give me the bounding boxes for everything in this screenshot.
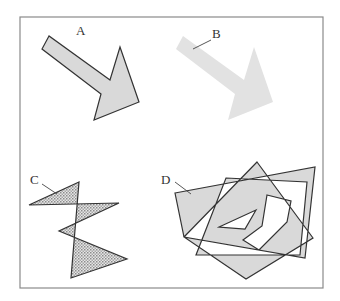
panel-b: B xyxy=(176,26,273,120)
panel-c: C xyxy=(29,172,127,278)
overlap-d-shape xyxy=(175,162,315,279)
panel-d: D xyxy=(161,162,315,279)
label-b: B xyxy=(212,26,221,41)
arrow-b-shape xyxy=(176,36,273,120)
leader-b xyxy=(193,40,211,49)
figure-canvas: A B C D xyxy=(0,0,340,301)
label-d: D xyxy=(161,172,170,187)
label-c: C xyxy=(30,172,39,187)
leader-c xyxy=(42,184,57,194)
label-a: A xyxy=(76,23,86,38)
arrow-a-shape xyxy=(42,36,139,120)
panel-a: A xyxy=(42,23,139,120)
zigzag-c-shape xyxy=(29,182,127,278)
